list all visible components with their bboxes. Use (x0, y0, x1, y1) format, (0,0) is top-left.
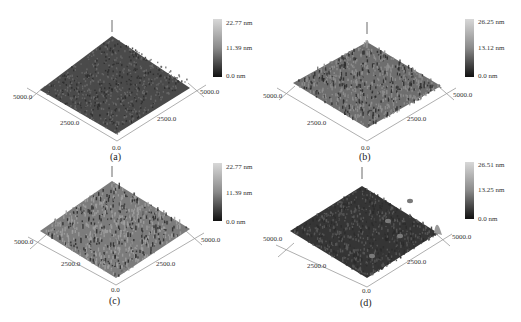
axis-right-end-label: 5000.0 (453, 92, 472, 99)
axis-left-mid-label: 2500.0 (307, 120, 326, 127)
colorbar-max-label: 26.51 nm (478, 162, 504, 169)
axis-left-end-label: 5000.0 (263, 93, 282, 100)
colorbar-mid-label: 13.12 nm (478, 45, 504, 52)
colorbar-min-label: 0.0 nm (226, 219, 245, 226)
axis-right-end-label: 5000.0 (452, 234, 471, 241)
panel-caption: (c) (109, 296, 120, 306)
colorbar-max-label: 22.77 nm (226, 164, 252, 171)
colorbar-min-label: 0.0 nm (226, 73, 245, 80)
colorbar-mid-label: 13.25 nm (478, 187, 504, 194)
axis-left-mid-label: 2500.0 (307, 263, 326, 270)
axis-left-mid-label: 2500.0 (60, 120, 79, 127)
colorbar (465, 162, 474, 219)
axis-origin-label: 0.0 (111, 287, 120, 294)
panel-b: 26.25 nm 13.12 nm 0.0 nm 5000.0 2500.0 0… (260, 0, 520, 161)
colorbar (213, 163, 222, 221)
axis-origin-label: 0.0 (362, 288, 371, 295)
axis-right-end-label: 5000.0 (201, 237, 220, 244)
colorbar-max-label: 26.25 nm (478, 19, 504, 26)
colorbar (465, 19, 474, 77)
panel-d: 26.51 nm 13.25 nm 0.0 nm 5000.0 2500.0 0… (260, 161, 520, 322)
colorbar-mid-label: 11.39 nm (226, 190, 252, 197)
axis-left-end-label: 5000.0 (263, 236, 282, 243)
axis-right-mid-label: 2500.0 (157, 116, 176, 123)
panel-caption: (d) (360, 298, 372, 308)
panel-a: 22.77 nm 11.39 nm 0.0 nm 5000.0 2500.0 0… (0, 0, 260, 161)
axis-left-end-label: 5000.0 (14, 239, 33, 246)
colorbar-min-label: 0.0 nm (478, 216, 497, 223)
axis-left-mid-label: 2500.0 (61, 261, 80, 268)
axis-right-mid-label: 2500.0 (407, 259, 426, 266)
colorbar (213, 19, 222, 77)
axis-right-end-label: 5000.0 (200, 89, 219, 96)
axis-right-mid-label: 2500.0 (407, 116, 426, 123)
surface-plot (0, 161, 260, 322)
colorbar-min-label: 0.0 nm (478, 73, 497, 80)
surface-plot (0, 0, 260, 161)
axis-left-end-label: 5000.0 (13, 94, 32, 101)
colorbar-mid-label: 11.39 nm (226, 45, 252, 52)
axis-right-mid-label: 2500.0 (156, 261, 175, 268)
colorbar-max-label: 22.77 nm (226, 20, 252, 27)
panel-c: 22.77 nm 11.39 nm 0.0 nm 5000.0 2500.0 0… (0, 161, 260, 322)
